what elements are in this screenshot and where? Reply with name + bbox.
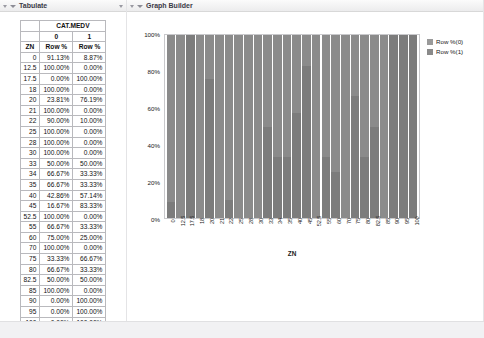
bar-segment-row1[interactable]: [360, 157, 369, 218]
bar-column[interactable]: [322, 35, 331, 218]
bar-segment-row1[interactable]: [225, 200, 234, 218]
table-row[interactable]: 7533.33%66.67%: [20, 254, 106, 265]
table-row[interactable]: 52.5100.00%0.00%: [20, 211, 106, 222]
bar-segment-row1[interactable]: [351, 96, 360, 218]
bar-segment-row1[interactable]: [399, 35, 408, 218]
table-row[interactable]: 28100.00%0.00%: [20, 137, 106, 148]
bar-column[interactable]: [215, 35, 224, 218]
table-row[interactable]: 12.5100.00%0.00%: [20, 63, 106, 74]
bar-column[interactable]: [273, 35, 282, 218]
tabulate-panel-header[interactable]: Tabulate: [0, 0, 126, 12]
bar-segment-row0[interactable]: [283, 35, 292, 157]
table-row[interactable]: 6075.00%25.00%: [20, 232, 106, 243]
bar-segment-row0[interactable]: [292, 35, 301, 113]
bar-segment-row1[interactable]: [302, 66, 311, 218]
table-row[interactable]: 3566.67%33.33%: [20, 179, 106, 190]
table-row[interactable]: 82.550.00%50.00%: [20, 275, 106, 286]
bar-column[interactable]: [312, 35, 321, 218]
table-row[interactable]: 85100.00%0.00%: [20, 285, 106, 296]
bar-column[interactable]: [186, 35, 195, 218]
table-row[interactable]: 70100.00%0.00%: [20, 243, 106, 254]
table-row[interactable]: 8066.67%33.33%: [20, 264, 106, 275]
bar-segment-row0[interactable]: [322, 35, 331, 157]
bar-segment-row0[interactable]: [351, 35, 360, 96]
bar-segment-row0[interactable]: [273, 35, 282, 157]
table-row[interactable]: 25100.00%0.00%: [20, 126, 106, 137]
plot-area[interactable]: [164, 34, 420, 219]
graph-builder-panel-header[interactable]: Graph Builder: [127, 0, 484, 12]
bar-column[interactable]: [389, 35, 398, 218]
bar-segment-row1[interactable]: [292, 113, 301, 218]
bar-segment-row1[interactable]: [283, 157, 292, 218]
bar-segment-row1[interactable]: [167, 202, 176, 218]
bar-column[interactable]: [167, 35, 176, 218]
bar-column[interactable]: [263, 35, 272, 218]
bar-column[interactable]: [234, 35, 243, 218]
bar-column[interactable]: [244, 35, 253, 218]
bar-column[interactable]: [254, 35, 263, 218]
bar-segment-row1[interactable]: [273, 157, 282, 218]
bar-segment-row0[interactable]: [244, 35, 253, 218]
table-row[interactable]: 900.00%100.00%: [20, 296, 106, 307]
table-row[interactable]: 18100.00%0.00%: [20, 84, 106, 95]
bar-segment-row0[interactable]: [380, 35, 389, 218]
panel-menu-icon[interactable]: [119, 5, 123, 8]
bar-column[interactable]: [380, 35, 389, 218]
bar-segment-row0[interactable]: [331, 35, 340, 172]
triangle-down-icon[interactable]: [130, 5, 134, 8]
table-row[interactable]: 4516.67%83.33%: [20, 201, 106, 212]
bar-column[interactable]: [360, 35, 369, 218]
table-row[interactable]: 2290.00%10.00%: [20, 116, 106, 127]
bar-segment-row1[interactable]: [263, 127, 272, 219]
table-row[interactable]: 3466.67%33.33%: [20, 169, 106, 180]
bar-column[interactable]: [302, 35, 311, 218]
bar-segment-row0[interactable]: [167, 35, 176, 202]
bar-segment-row0[interactable]: [205, 35, 214, 79]
bar-column[interactable]: [283, 35, 292, 218]
bar-column[interactable]: [399, 35, 408, 218]
bar-segment-row1[interactable]: [370, 127, 379, 219]
bar-segment-row1[interactable]: [389, 35, 398, 218]
bar-segment-row0[interactable]: [360, 35, 369, 157]
bar-column[interactable]: [225, 35, 234, 218]
bar-segment-row1[interactable]: [186, 35, 195, 218]
bar-segment-row1[interactable]: [322, 157, 331, 218]
bar-segment-row1[interactable]: [409, 35, 418, 218]
table-row[interactable]: 3350.00%50.00%: [20, 158, 106, 169]
table-row[interactable]: 21100.00%0.00%: [20, 105, 106, 116]
disclosure-triangle-icon[interactable]: [137, 5, 143, 8]
legend-entry[interactable]: Row %(1): [427, 48, 463, 55]
bar-column[interactable]: [370, 35, 379, 218]
bar-column[interactable]: [196, 35, 205, 218]
bar-column[interactable]: [205, 35, 214, 218]
bar-segment-row0[interactable]: [196, 35, 205, 218]
bar-segment-row1[interactable]: [331, 172, 340, 218]
bar-segment-row0[interactable]: [263, 35, 272, 127]
bar-segment-row0[interactable]: [254, 35, 263, 218]
bar-segment-row0[interactable]: [215, 35, 224, 218]
bar-segment-row0[interactable]: [302, 35, 311, 66]
table-row[interactable]: 17.50.00%100.00%: [20, 73, 106, 84]
bar-column[interactable]: [409, 35, 418, 218]
bar-segment-row1[interactable]: [205, 79, 214, 218]
table-row[interactable]: 2023.81%76.19%: [20, 95, 106, 106]
table-row[interactable]: 30100.00%0.00%: [20, 148, 106, 159]
disclosure-triangle-icon[interactable]: [10, 5, 16, 8]
bar-column[interactable]: [176, 35, 185, 218]
triangle-down-icon[interactable]: [3, 5, 7, 8]
bar-segment-row0[interactable]: [176, 35, 185, 218]
bar-segment-row0[interactable]: [234, 35, 243, 218]
bar-segment-row0[interactable]: [312, 35, 321, 218]
legend-entry[interactable]: Row %(0): [427, 38, 463, 45]
bar-column[interactable]: [341, 35, 350, 218]
table-row[interactable]: 091.13%8.87%: [20, 52, 106, 63]
bar-column[interactable]: [331, 35, 340, 218]
table-row[interactable]: 950.00%100.00%: [20, 307, 106, 318]
bar-segment-row0[interactable]: [370, 35, 379, 127]
bar-column[interactable]: [292, 35, 301, 218]
table-row[interactable]: 4042.86%57.14%: [20, 190, 106, 201]
bar-segment-row0[interactable]: [341, 35, 350, 218]
bar-segment-row0[interactable]: [225, 35, 234, 200]
bar-column[interactable]: [351, 35, 360, 218]
table-row[interactable]: 5566.67%33.33%: [20, 222, 106, 233]
